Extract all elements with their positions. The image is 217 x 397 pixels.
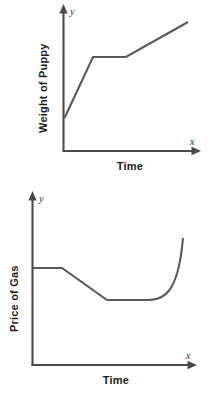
y-axis-arrowhead	[28, 191, 36, 201]
x-axis-title: Time	[117, 160, 143, 172]
x-axis-variable-label: x	[189, 136, 195, 147]
x-axis-title: Time	[103, 374, 129, 386]
y-axis-arrowhead	[59, 4, 67, 14]
data-line-weight	[65, 22, 189, 118]
y-axis-title: Weight of Puppy	[37, 43, 49, 133]
chart-price-of-gas: y x Price of Gas Time	[0, 180, 217, 397]
chart-weight-of-puppy: y x Weight of Puppy Time	[0, 0, 217, 180]
y-axis-title: Price of Gas	[8, 265, 20, 332]
x-axis-variable-label: x	[185, 350, 191, 361]
y-axis-variable-label: y	[69, 6, 75, 17]
x-axis-arrowhead	[188, 361, 198, 369]
x-axis-arrowhead	[192, 147, 202, 155]
data-line-price	[33, 238, 183, 300]
y-axis-variable-label: y	[38, 193, 44, 204]
axes-group-price	[28, 191, 197, 369]
